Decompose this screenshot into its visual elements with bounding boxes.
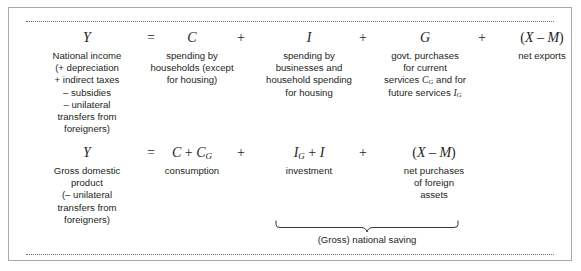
row2-symbol-c: C <box>172 145 181 160</box>
top-dotted-rule <box>26 21 554 22</box>
row1-symbol-m: M <box>547 30 559 45</box>
row1-symbol-paren-close: ) <box>559 30 564 45</box>
row1-desc-government-line3-pre: services <box>384 74 422 85</box>
row2-symbol-paren-close: ) <box>451 145 456 160</box>
row2-symbol-cg: C <box>196 145 205 160</box>
row2-desc-investment: investment <box>256 165 362 177</box>
row2-desc-consumption: consumption <box>140 165 244 177</box>
figure-panel: Y National income (+ depreciation + indi… <box>8 7 572 261</box>
row2-symbol-m: M <box>439 145 451 160</box>
row2-symbol-net-foreign-purchases: (X – M) <box>382 145 486 161</box>
row2-operator-plus-1: + <box>229 145 253 161</box>
row2-symbol-plus-inline: + <box>305 145 320 160</box>
row1-desc-government-line1: govt. purchases <box>391 50 459 61</box>
row1-desc-government-line4-pre: future services <box>388 87 453 98</box>
row1-operator-plus-3: + <box>470 30 494 46</box>
bottom-dotted-rule <box>26 254 554 255</box>
row2-term-net-foreign-purchases: (X – M) net purchases of foreign assets <box>382 145 486 202</box>
row2-symbol-cg-sub: G <box>206 151 213 161</box>
national-saving-label: (Gross) national saving <box>265 234 469 246</box>
row2-symbol-investment: IG + I <box>256 145 362 161</box>
row2-operator-plus-2: + <box>351 145 375 161</box>
row1-symbol-minus: – <box>533 30 547 45</box>
national-saving-brace-icon <box>275 220 459 234</box>
row2-desc-net-foreign-purchases: net purchases of foreign assets <box>382 165 486 202</box>
row2-term-gross-domestic-product: Y Gross domestic product (– unilateral t… <box>23 145 151 226</box>
row1-desc-government-line3-post: and for <box>433 74 466 85</box>
row1-desc-government-ig-sub: G <box>457 91 462 99</box>
row1-term-government: G govt. purchases for current services C… <box>373 30 477 99</box>
row2-symbol-i: I <box>320 145 325 160</box>
row2-symbol-y: Y <box>23 145 151 161</box>
row1-symbol-y: Y <box>23 30 151 46</box>
row1-term-investment: I spending by businesses and household s… <box>256 30 362 99</box>
row1-operator-plus-2: + <box>351 30 375 46</box>
row1-symbol-i: I <box>256 30 362 46</box>
row2-term-investment: IG + I investment <box>256 145 362 177</box>
row1-term-national-income: Y National income (+ depreciation + indi… <box>23 30 151 135</box>
row1-symbol-net-exports: (X – M) <box>492 30 581 46</box>
row1-term-net-exports: (X – M) net exports <box>492 30 581 62</box>
row2-desc-gross-domestic-product: Gross domestic product (– unilateral tra… <box>23 165 151 226</box>
row1-desc-government-line2: for current <box>403 62 447 73</box>
row1-desc-national-income: National income (+ depreciation + indire… <box>23 50 151 135</box>
row1-desc-consumption: spending by households (except for housi… <box>140 50 244 87</box>
row2-symbol-minus: – <box>425 145 439 160</box>
row2-symbol-plus: + <box>181 145 196 160</box>
row1-symbol-g: G <box>373 30 477 46</box>
row1-desc-net-exports: net exports <box>492 50 581 62</box>
row1-desc-investment: spending by businesses and household spe… <box>256 50 362 99</box>
row1-operator-plus-1: + <box>229 30 253 46</box>
row1-desc-government: govt. purchases for current services CG … <box>373 50 477 99</box>
